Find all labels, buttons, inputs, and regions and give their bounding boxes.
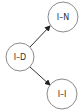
edge-id-to-ii: [30, 67, 50, 85]
node-in-label: I–N: [57, 13, 69, 22]
edge-id-to-in: [30, 26, 50, 47]
node-ii-label: I–I: [58, 90, 67, 99]
node-in: I–N: [48, 2, 78, 32]
diagram-canvas: I–D I–N I–I: [0, 0, 84, 111]
node-id: I–D: [6, 43, 34, 71]
node-ii: I–I: [47, 79, 77, 109]
node-id-label: I–D: [14, 53, 27, 62]
